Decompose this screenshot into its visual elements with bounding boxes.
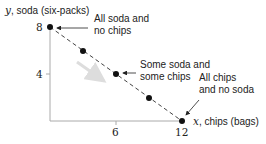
x-axis-label: x, chips (bags): [193, 115, 259, 127]
annotation-all-chips: All chips and no soda: [199, 72, 254, 95]
y-axis-label: y, soda (six-packs): [4, 4, 89, 16]
shift-arrow: [77, 62, 104, 81]
budget-line-chart: 8 4 6 12 y, soda (six-packs) x, chips (b…: [0, 0, 266, 144]
annotation-all-soda: All soda and no chips: [94, 13, 152, 36]
point-6-4: [113, 71, 119, 77]
point-0-8: [47, 24, 53, 30]
y-tick-4: 4: [36, 68, 43, 80]
x-tick-12: 12: [175, 126, 188, 138]
y-tick-8: 8: [36, 21, 43, 33]
point-9-2: [146, 95, 152, 101]
x-tick-6: 6: [112, 126, 119, 138]
point-12-0: [179, 118, 185, 124]
point-3-6: [80, 48, 86, 54]
